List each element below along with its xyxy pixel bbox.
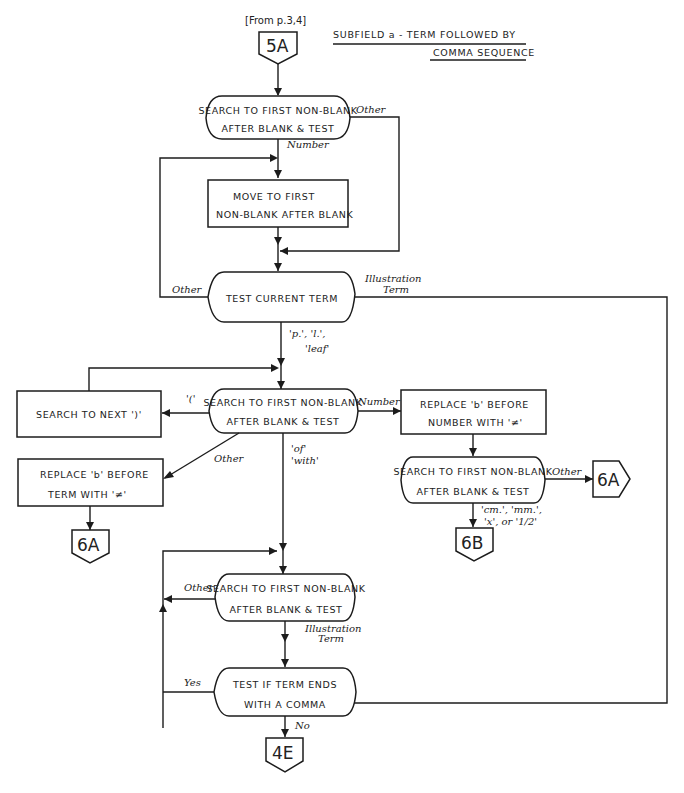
node-text-line1: MOVE TO FIRST [233, 191, 315, 202]
node-text-line2: NON-BLANK AFTER BLANK [216, 209, 354, 220]
node-text-line1: REPLACE 'b' BEFORE [40, 469, 149, 480]
arrow-head-icon [281, 659, 289, 667]
arrow-head-icon [271, 364, 279, 372]
edge-label-other: Other [214, 453, 245, 464]
node-text-line1: TEST IF TERM ENDS [232, 679, 337, 690]
node-text-line2: AFTER BLANK & TEST [417, 486, 530, 497]
node-text-line2: NUMBER WITH '≠' [428, 417, 523, 428]
arrow-head-icon [279, 566, 287, 574]
connector-label: 6B [461, 533, 483, 553]
edge-label-number: Number [286, 139, 330, 150]
offpage-connector-6b: 6B [456, 528, 493, 561]
arrow-head-icon [163, 471, 174, 479]
edge-label-of: 'of' [291, 443, 306, 454]
arrow-head-icon [585, 475, 593, 483]
diagram-title: SUBFIELD a - TERM FOLLOWED BY COMMA SEQU… [333, 29, 535, 60]
flowchart-canvas: SUBFIELD a - TERM FOLLOWED BY COMMA SEQU… [0, 0, 684, 793]
decision-search2: SEARCH TO FIRST NON-BLANK AFTER BLANK & … [203, 389, 362, 433]
arrow-head-icon [281, 634, 289, 642]
process-move-first-nonblank: MOVE TO FIRST NON-BLANK AFTER BLANK [208, 180, 354, 227]
title-line-2: COMMA SEQUENCE [433, 47, 535, 58]
edge-label-pl: 'p.', 'l.', [289, 328, 326, 339]
edge-paren-loop [89, 368, 275, 391]
edge-label-other: Other [552, 466, 583, 477]
edge-label-leaf: 'leaf' [305, 343, 329, 354]
connector-label: 6A [77, 535, 100, 555]
arrow-head-icon [274, 88, 282, 96]
entry-connector-5a: [From p.3,4] 5A [245, 15, 306, 64]
arrow-head-icon [164, 595, 172, 603]
node-text-line2: AFTER BLANK & TEST [222, 123, 335, 134]
node-text-line2: AFTER BLANK & TEST [227, 416, 340, 427]
arrow-head-icon [281, 729, 289, 737]
decision-search4: SEARCH TO FIRST NON-BLANK AFTER BLANK & … [206, 574, 365, 621]
node-text-line2: WITH A COMMA [244, 699, 326, 710]
node-text-line1: SEARCH TO FIRST NON-BLANK [206, 583, 365, 594]
arrow-head-icon [162, 409, 170, 417]
decision-test-comma: TEST IF TERM ENDS WITH A COMMA [214, 668, 356, 716]
arrow-head-icon [469, 448, 477, 456]
from-note: [From p.3,4] [245, 15, 306, 26]
node-text-line1: SEARCH TO FIRST NON-BLANK [203, 397, 362, 408]
decision-search1: SEARCH TO FIRST NON-BLANK AFTER BLANK & … [198, 96, 357, 139]
edge-label-yes: Yes [184, 677, 201, 688]
node-text-line1: REPLACE 'b' BEFORE [420, 399, 529, 410]
edge-label-with: 'with' [291, 455, 319, 466]
arrow-head-icon [274, 237, 282, 245]
offpage-connector-6a-left: 6A [72, 530, 109, 563]
node-text-line1: SEARCH TO FIRST NON-BLANK [198, 105, 357, 116]
arrow-head-icon [280, 247, 288, 255]
title-line-1: SUBFIELD a - TERM FOLLOWED BY [333, 29, 516, 40]
edge-label-illustration: Illustration [364, 273, 421, 284]
arrow-head-icon [469, 519, 477, 527]
edge-label-other: Other [356, 104, 387, 115]
edge-label-other: Other [184, 582, 215, 593]
node-text-line1: TEST CURRENT TERM [225, 293, 338, 304]
arrow-head-icon [274, 263, 282, 271]
edge-label-units-2: 'x', or '1/2' [484, 516, 537, 527]
offpage-connector-4e: 4E [266, 738, 303, 772]
process-replace-before-number: REPLACE 'b' BEFORE NUMBER WITH '≠' [401, 390, 546, 434]
edge-label-term: Term [383, 284, 409, 295]
decision-search3: SEARCH TO FIRST NON-BLANK AFTER BLANK & … [393, 457, 552, 503]
node-text-line2: TERM WITH '≠' [47, 489, 127, 500]
edge-label-units-1: 'cm.', 'mm.', [481, 504, 542, 515]
decision-test-current-term: TEST CURRENT TERM [208, 272, 355, 322]
arrow-head-icon [159, 604, 167, 612]
offpage-connector-6a-right: 6A [593, 461, 630, 497]
node-text-line2: AFTER BLANK & TEST [230, 604, 343, 615]
connector-label: 6A [597, 470, 620, 490]
arrow-head-icon [274, 170, 282, 178]
node-text-line1: SEARCH TO NEXT ')' [36, 409, 142, 420]
process-replace-before-term: REPLACE 'b' BEFORE TERM WITH '≠' [18, 459, 163, 506]
node-text-line1: SEARCH TO FIRST NON-BLANK [393, 466, 552, 477]
edge-label-paren: '(' [186, 393, 195, 404]
arrow-head-icon [269, 547, 277, 555]
arrow-head-icon [279, 543, 287, 551]
connector-label: 4E [272, 743, 294, 763]
edge-label-term: Term [318, 633, 344, 644]
edge-label-number: Number [357, 396, 401, 407]
process-search-next-paren: SEARCH TO NEXT ')' [17, 391, 161, 437]
edge-label-no: No [294, 720, 310, 731]
arrow-head-icon [86, 522, 94, 530]
connector-label: 5A [266, 36, 289, 56]
arrow-head-icon [277, 381, 285, 389]
edge-label-other: Other [172, 284, 203, 295]
arrow-head-icon [393, 407, 401, 415]
arrow-head-icon [277, 358, 285, 366]
